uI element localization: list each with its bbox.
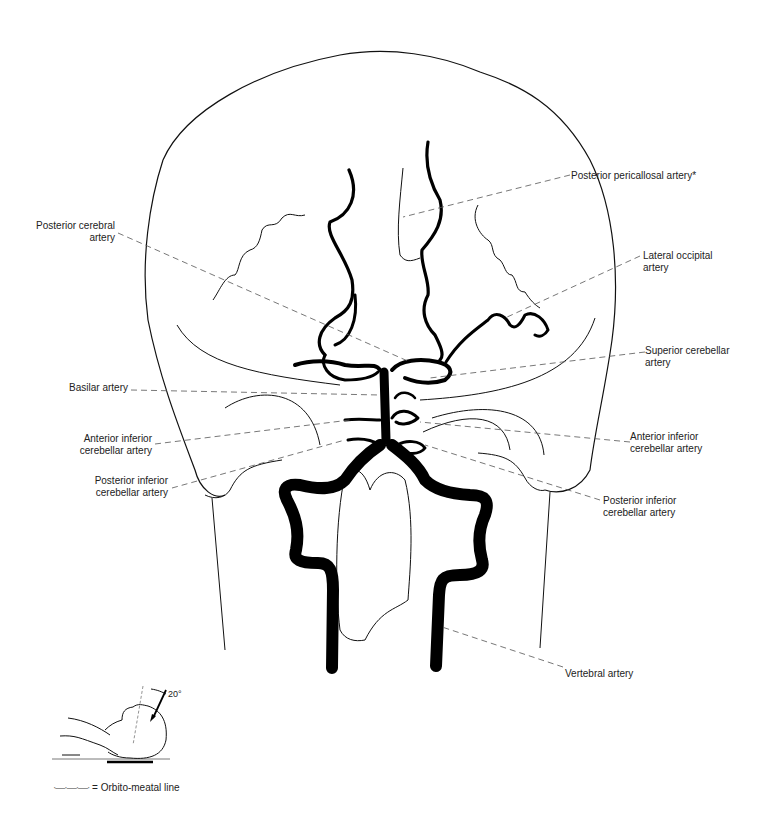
right-posterior-cerebral [422, 142, 548, 362]
right-vertebral [392, 445, 487, 666]
left-neck [212, 498, 225, 650]
label-lateral-occipital: Lateral occipital artery [643, 250, 712, 274]
leader-aica-right [420, 422, 630, 442]
legend-text: = Orbito-meatal line [92, 782, 180, 793]
leader-vertebral [442, 627, 563, 667]
pericallosal-thin [398, 168, 420, 261]
label-basilar: Basilar artery [40, 382, 128, 394]
right-wavy-branch [475, 205, 540, 308]
leader-posterior-cerebral [118, 233, 410, 362]
label-vertebral: Vertebral artery [565, 668, 633, 680]
left-wavy-branch [213, 214, 305, 300]
left-petrous [225, 395, 320, 445]
right-neck [540, 492, 550, 648]
right-aica [392, 411, 418, 424]
left-posterior-cerebral [319, 170, 355, 355]
positioning-inset: 20° [52, 686, 182, 762]
inset-angle-label: 20° [168, 689, 182, 699]
label-pica-left: Posterior inferior cerebellar artery [68, 475, 168, 499]
right-aica-small [395, 393, 415, 398]
leader-superior-cerebellar [430, 352, 645, 378]
legend-orbito-meatal: ·—·—·—· = Orbito-meatal line [53, 782, 180, 794]
label-pica-right: Posterior inferior cerebellar artery [603, 495, 676, 519]
leader-basilar [131, 390, 380, 395]
right-mastoid [478, 453, 545, 491]
angiogram-diagram: 20° [0, 0, 766, 823]
basilar-trunk [384, 372, 386, 440]
label-aica-left: Anterior inferior cerebellar artery [52, 433, 152, 457]
legend-line-symbol: ·—·—·—· [53, 782, 89, 793]
right-superior-cerebellar [392, 360, 450, 383]
left-aica [345, 419, 380, 420]
leader-lateral-occipital [505, 256, 640, 318]
foramen-outline [337, 470, 411, 641]
label-posterior-pericallosal: Posterior pericallosal artery* [571, 170, 696, 182]
leader-posterior-pericallosal [403, 175, 570, 217]
label-aica-right: Anterior inferior cerebellar artery [630, 431, 702, 455]
left-superior-cerebellar [295, 361, 380, 370]
label-superior-cerebellar: Superior cerebellar artery [645, 345, 730, 369]
skull-outline-left [145, 160, 225, 496]
left-tentorium [177, 325, 340, 385]
leader-pica-left [172, 440, 345, 488]
label-posterior-cerebral: Posterior cerebral artery [28, 220, 115, 244]
left-mastoid [205, 460, 282, 498]
